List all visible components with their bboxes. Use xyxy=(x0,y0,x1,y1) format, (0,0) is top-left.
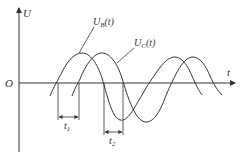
t1-label: t1 xyxy=(64,120,70,133)
origin-label: O xyxy=(5,77,13,89)
ub-label: UB(t) xyxy=(93,16,115,29)
x-axis-label: t xyxy=(227,66,231,78)
ub-leader-line xyxy=(79,27,94,53)
t2-label: t2 xyxy=(109,135,116,148)
curve-ub xyxy=(50,53,202,120)
curve-uc xyxy=(72,53,222,122)
uc-label: UC(t) xyxy=(134,37,156,50)
y-axis-label: U xyxy=(23,7,32,19)
uc-leader-line xyxy=(117,48,134,63)
phase-shift-diagram: U t O UB(t) UC(t) t1 t2 xyxy=(0,0,241,156)
